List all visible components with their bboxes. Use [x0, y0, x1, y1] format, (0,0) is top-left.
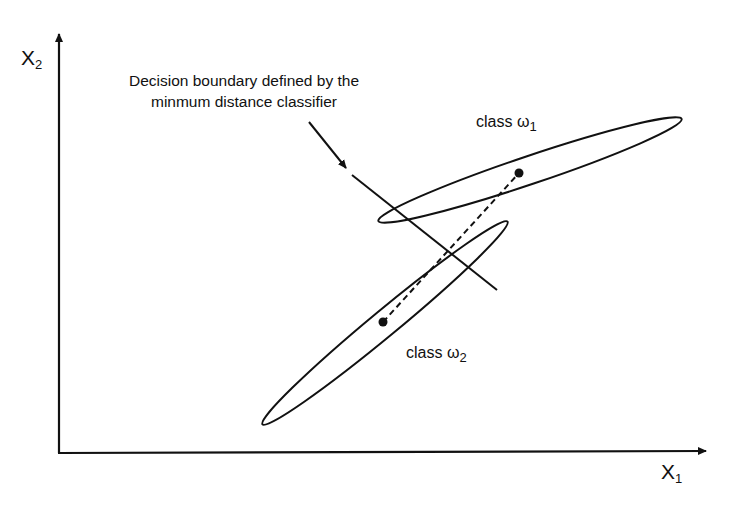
class-2-label: class ω2 — [406, 344, 467, 365]
decision-boundary-annotation: Decision boundary defined by the minmum … — [84, 70, 404, 112]
x-axis-label-subscript: 1 — [675, 471, 682, 486]
x-axis — [58, 451, 706, 453]
x-axis-label-text: X — [661, 460, 675, 483]
x-axis-label: X1 — [661, 460, 682, 486]
decision-boundary-line — [352, 175, 497, 290]
mean-connector-dashed-line — [383, 173, 519, 322]
y-axis-label-subscript: 2 — [35, 57, 42, 72]
annotation-line-2: minmum distance classifier — [84, 91, 404, 112]
class-1-label-text: class ω — [476, 113, 529, 130]
annotation-arrow — [309, 122, 346, 168]
annotation-line-1: Decision boundary defined by the — [84, 70, 404, 91]
class-1-mean-dot — [515, 169, 524, 178]
class-2-label-text: class ω — [406, 344, 459, 361]
y-axis-label-text: X — [21, 46, 35, 69]
class-2-mean-dot — [379, 318, 388, 327]
class-1-label-subscript: 1 — [529, 119, 536, 134]
class-1-label: class ω1 — [476, 113, 537, 134]
y-axis-label: X2 — [21, 46, 42, 72]
class-2-label-subscript: 2 — [459, 350, 466, 365]
